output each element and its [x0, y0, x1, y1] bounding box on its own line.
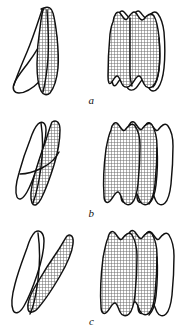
lateral-outline-superimposition-a — [13, 7, 58, 95]
outline-shaded-b-left-tooth — [104, 123, 140, 205]
figure-row-a: a — [0, 0, 183, 112]
row-label-a: a — [0, 95, 183, 106]
row-label-c: c — [0, 316, 183, 327]
figure-row-c: c — [0, 224, 183, 335]
outline-shaded-a-right — [108, 12, 160, 88]
lateral-outline-superimposition-c — [12, 231, 73, 314]
outline-shaded-c-left-tooth — [101, 232, 137, 316]
occlusal-outline-superimposition-c — [101, 231, 174, 316]
figure-root: a b — [0, 0, 183, 335]
occlusal-outline-superimposition-b — [104, 122, 173, 205]
figure-row-b: b — [0, 112, 183, 224]
occlusal-outline-superimposition-a — [108, 11, 165, 91]
row-label-b: b — [0, 208, 183, 219]
lateral-outline-superimposition-b — [16, 121, 60, 205]
